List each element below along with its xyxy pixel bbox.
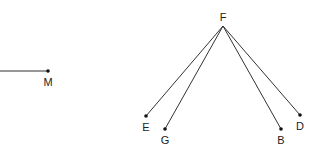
geometry-diagram: M EGBD F [0, 0, 315, 149]
point-g [163, 127, 167, 131]
ray-f-d: D [223, 26, 304, 132]
point-b [279, 127, 283, 131]
segment-f-b [223, 26, 281, 129]
rays-from-f: EGBD [142, 26, 304, 146]
point-d [298, 113, 302, 117]
ray-f-e: E [142, 26, 223, 133]
label-f: F [220, 11, 227, 23]
segment-f-e [146, 26, 223, 116]
label-g: G [161, 134, 170, 146]
point-m [46, 69, 50, 73]
label-e: E [142, 121, 149, 133]
label-b: B [277, 134, 284, 146]
segment-m: M [0, 69, 53, 88]
label-m: M [43, 76, 52, 88]
segment-f-d [223, 26, 300, 115]
label-d: D [296, 120, 304, 132]
segment-f-g [165, 26, 223, 129]
ray-f-g: G [161, 26, 223, 146]
point-e [144, 114, 148, 118]
